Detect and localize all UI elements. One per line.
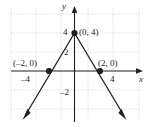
point-marker-vertex [71,30,77,36]
x-tick-label-4: 4 [110,75,115,84]
point-label-x-intercept-left: (–2, 0) [13,59,37,68]
curve-arrowhead-right [118,109,126,120]
x-axis [11,68,143,74]
curve-arrowhead-left [23,109,31,120]
y-tick-label-neg2: –2 [60,88,69,97]
x-axis-label: x [139,75,143,84]
x-tick-label-neg4: –4 [21,75,30,84]
y-tick-label-2: 2 [64,48,69,57]
y-tick-label-4: 4 [63,28,68,37]
point-marker-x-intercept-right [97,68,103,74]
coordinate-graph-figure: y x 4 2 –2 –4 4 (0, 4) (–2, 0) (2, 0) [0,0,150,127]
y-axis-label: y [62,2,66,11]
point-marker-x-intercept-left [46,68,52,74]
y-axis [72,6,78,122]
point-label-x-intercept-right: (2, 0) [98,59,118,68]
y-axis-arrowhead [72,6,78,13]
x-axis-arrowhead [136,68,143,74]
point-label-vertex: (0, 4) [79,28,99,37]
